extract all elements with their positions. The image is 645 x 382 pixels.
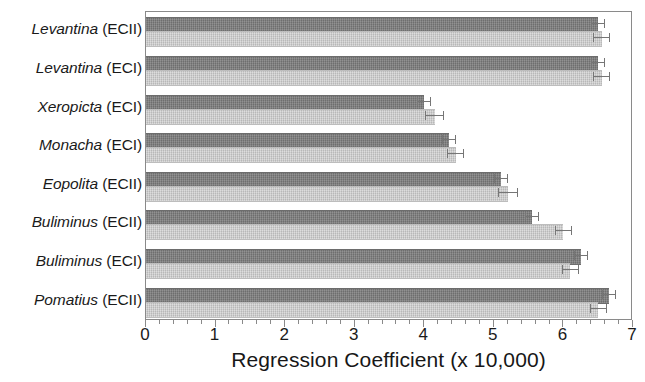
category-genus: Levantina xyxy=(32,20,98,37)
x-tick-minor xyxy=(256,320,257,324)
x-tick-minor xyxy=(618,320,619,324)
y-axis-category-labels: Levantina (ECII)Levantina (ECI)Xeropicta… xyxy=(0,11,142,320)
category-ec-phase: (ECII) xyxy=(98,291,142,308)
x-tick-minor xyxy=(242,320,243,324)
x-tick-minor xyxy=(479,320,480,324)
x-tick-minor xyxy=(437,320,438,324)
x-tick-label-7: 7 xyxy=(627,325,636,345)
x-tick-minor xyxy=(228,320,229,324)
bar-series-light-5 xyxy=(146,224,563,240)
category-ec-phase: (ECI) xyxy=(102,59,142,76)
x-tick-minor xyxy=(604,320,605,324)
y-axis-label-5: Buliminus (ECII) xyxy=(2,213,142,231)
x-tick-label-2: 2 xyxy=(279,325,288,345)
category-genus: Monacha xyxy=(39,136,102,153)
category-ec-phase: (ECII) xyxy=(98,213,142,230)
bar-series-light-1 xyxy=(146,70,602,86)
category-genus: Buliminus xyxy=(32,213,98,230)
y-axis-label-7: Pomatius (ECII) xyxy=(2,291,142,309)
y-axis-label-3: Monacha (ECI) xyxy=(2,136,142,154)
x-tick-minor xyxy=(298,320,299,324)
x-tick-minor xyxy=(549,320,550,324)
x-tick-minor xyxy=(465,320,466,324)
category-genus: Levantina xyxy=(36,59,102,76)
category-genus: Pomatius xyxy=(34,291,98,308)
x-tick-minor xyxy=(326,320,327,324)
category-ec-phase: (ECI) xyxy=(102,252,142,269)
x-tick-minor xyxy=(201,320,202,324)
category-ec-phase: (ECII) xyxy=(98,175,142,192)
y-axis-label-4: Eopolita (ECII) xyxy=(2,175,142,193)
x-tick-minor xyxy=(590,320,591,324)
y-axis-label-6: Buliminus (ECI) xyxy=(2,252,142,270)
x-tick-minor xyxy=(507,320,508,324)
x-tick-label-0: 0 xyxy=(140,325,149,345)
category-genus: Xeropicta xyxy=(38,98,103,115)
bar-series-light-4 xyxy=(146,186,508,202)
x-tick-minor xyxy=(340,320,341,324)
x-tick-minor xyxy=(535,320,536,324)
x-tick-minor xyxy=(576,320,577,324)
bar-series-light-6 xyxy=(146,263,570,279)
x-tick-minor xyxy=(312,320,313,324)
x-tick-minor xyxy=(521,320,522,324)
x-tick-minor xyxy=(451,320,452,324)
bar-series-light-3 xyxy=(146,147,456,163)
x-axis-title: Regression Coefficient (x 10,000) xyxy=(145,348,632,372)
y-axis-label-0: Levantina (ECII) xyxy=(2,20,142,38)
x-tick-label-4: 4 xyxy=(419,325,428,345)
x-tick-minor xyxy=(368,320,369,324)
bar-chart: Levantina (ECII)Levantina (ECI)Xeropicta… xyxy=(0,0,645,382)
y-axis-label-2: Xeropicta (ECI) xyxy=(2,98,142,116)
bar-series-light-2 xyxy=(146,109,435,125)
x-tick-minor xyxy=(382,320,383,324)
x-tick-label-5: 5 xyxy=(488,325,497,345)
x-tick-label-3: 3 xyxy=(349,325,358,345)
category-genus: Eopolita xyxy=(43,175,98,192)
x-tick-minor xyxy=(270,320,271,324)
category-ec-phase: (ECI) xyxy=(102,136,142,153)
x-tick-label-1: 1 xyxy=(210,325,219,345)
bar-series-light-7 xyxy=(146,302,598,318)
category-ec-phase: (ECII) xyxy=(98,20,142,37)
x-tick-minor xyxy=(395,320,396,324)
category-genus: Buliminus xyxy=(36,252,102,269)
bar-series-light-0 xyxy=(146,31,602,47)
x-tick-minor xyxy=(173,320,174,324)
plot-area xyxy=(145,11,632,320)
y-axis-label-1: Levantina (ECI) xyxy=(2,59,142,77)
x-tick-minor xyxy=(187,320,188,324)
x-tick-minor xyxy=(409,320,410,324)
x-tick-minor xyxy=(159,320,160,324)
category-ec-phase: (ECI) xyxy=(102,98,142,115)
x-tick-label-6: 6 xyxy=(558,325,567,345)
